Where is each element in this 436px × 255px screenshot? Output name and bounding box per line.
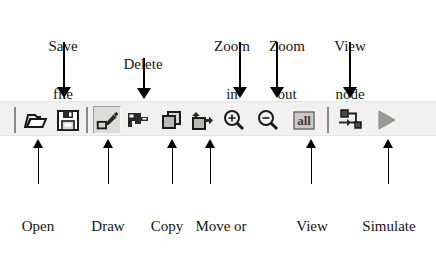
toolbar-separator [86, 107, 88, 133]
zoom-in-icon [220, 106, 248, 134]
callout-label-view-entire-drawing: View entire drawing [274, 186, 350, 255]
label-line: Zoom [258, 38, 316, 54]
toolbar-button-move-or-stretch[interactable] [188, 106, 216, 134]
toolbar-button-draw-a-box[interactable] [93, 106, 121, 134]
toolbar-separator [14, 107, 16, 133]
toolbar-button-delete[interactable] [124, 106, 152, 134]
toolbar[interactable]: all [0, 101, 436, 136]
label-line: Move or [185, 218, 257, 234]
copy-icon [157, 106, 185, 134]
callout-arrow-zoom-in [232, 42, 248, 98]
callout-arrow-simulate-circuit [381, 139, 395, 184]
move-stretch-icon [188, 106, 216, 134]
callout-arrow-save-file [56, 42, 72, 98]
callout-arrow-delete [136, 58, 152, 98]
callout-arrow-move-or-stretch [203, 139, 217, 184]
label-line: Draw [78, 218, 138, 234]
toolbar-separator [327, 107, 329, 133]
floppy-save-icon [54, 106, 82, 134]
callout-arrow-view-node [342, 42, 358, 98]
callout-arrow-zoom-out [269, 42, 285, 98]
view-all-icon: all [290, 106, 318, 134]
label-line: Open [8, 218, 68, 234]
toolbar-button-copy[interactable] [157, 106, 185, 134]
toolbar-button-view-node[interactable] [336, 106, 364, 134]
label-line: View [274, 218, 350, 234]
label-line: out [258, 86, 316, 102]
toolbar-button-view-entire-drawing[interactable]: all [290, 106, 318, 134]
open-folder-icon [24, 106, 52, 134]
view-all-glyph-text: all [297, 113, 311, 128]
callout-label-open-file: Open file [8, 186, 68, 255]
callout-arrow-draw-a-box [101, 139, 115, 184]
callout-label-move-or-stretch: Move or stretch [185, 186, 257, 255]
label-line: Simulate [350, 218, 428, 234]
callout-label-simulate-circuit: Simulate circuit [350, 186, 428, 255]
toolbar-button-open-file[interactable] [24, 106, 52, 134]
delete-tool-icon [124, 106, 152, 134]
toolbar-button-zoom-in[interactable] [220, 106, 248, 134]
draw-box-icon [94, 107, 120, 133]
toolbar-button-save-file[interactable] [54, 106, 82, 134]
toolbar-button-simulate-circuit[interactable] [372, 106, 400, 134]
toolbar-button-zoom-out[interactable] [254, 106, 282, 134]
callout-arrow-copy [165, 139, 179, 184]
callout-arrow-open-file [31, 139, 45, 184]
view-node-icon [336, 106, 364, 134]
figure-canvas: Save file Delete Zoom in Zoom out View n… [0, 0, 436, 255]
callout-label-draw-a-box: Draw a box [78, 186, 138, 255]
callout-arrow-view-entire-drawing [304, 139, 318, 184]
play-triangle-icon [372, 106, 400, 134]
zoom-out-icon [254, 106, 282, 134]
